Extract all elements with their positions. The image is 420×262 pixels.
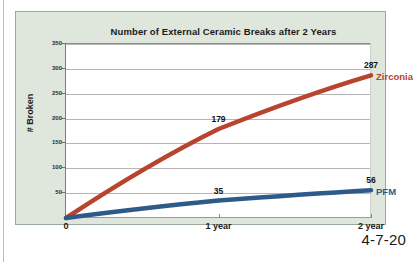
chart-figure-panel: Number of External Ceramic Breaks after … xyxy=(15,11,386,225)
series-label-zirconia: Zirconia xyxy=(376,71,413,82)
value-label: 35 xyxy=(214,186,223,196)
page-left-rule xyxy=(3,0,4,262)
y-tick-label: 100 xyxy=(36,164,62,170)
y-tick-label: 300 xyxy=(36,65,62,71)
x-tick-label: 0 xyxy=(63,221,68,231)
chart-title: Number of External Ceramic Breaks after … xyxy=(71,26,376,37)
x-tick-mark xyxy=(371,214,372,218)
series-line-zirconia xyxy=(66,75,371,218)
y-tick-label: 150 xyxy=(36,139,62,145)
y-tick-label: 200 xyxy=(36,115,62,121)
value-label: 56 xyxy=(366,175,375,185)
footer-date: 4-7-20 xyxy=(361,231,406,248)
x-tick-label: 2 year xyxy=(358,221,384,231)
series-label-pfm: PFM xyxy=(376,186,396,197)
y-tick-label: 350 xyxy=(36,40,62,46)
y-axis-ticks: 50100150200250300350 xyxy=(34,43,62,218)
value-label: 179 xyxy=(211,114,225,124)
y-tick-label: 250 xyxy=(36,90,62,96)
x-tick-label: 1 year xyxy=(205,221,231,231)
y-tick-label: 50 xyxy=(36,189,62,195)
value-label: 287 xyxy=(364,60,378,70)
x-tick-mark xyxy=(219,214,220,218)
